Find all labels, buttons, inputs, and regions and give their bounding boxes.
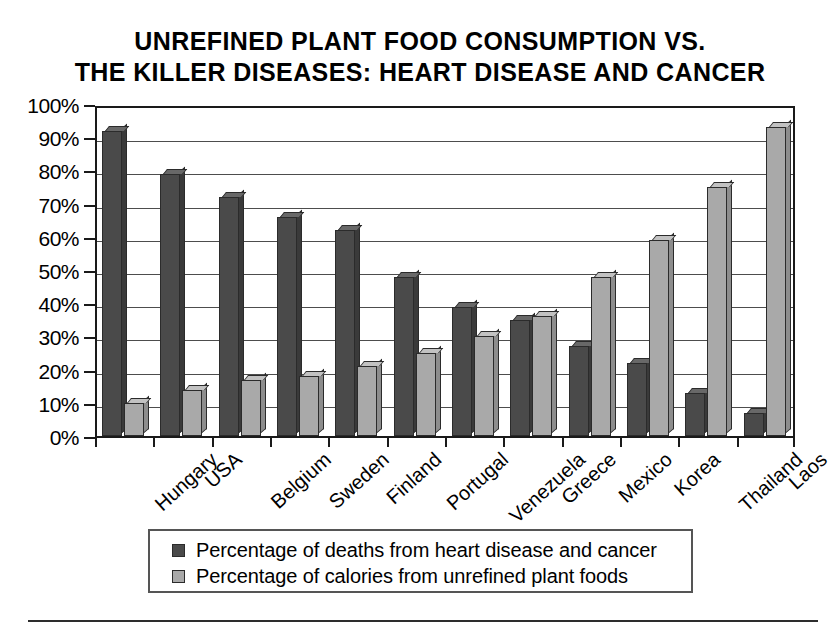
y-tick-mark	[84, 271, 95, 273]
y-tick-label: 10%	[38, 393, 79, 417]
bar-deaths-greece	[510, 320, 530, 436]
bar-deaths-laos	[744, 413, 764, 436]
bar-face	[299, 376, 319, 436]
bar-face	[160, 174, 180, 436]
bar-face	[707, 187, 727, 436]
legend-label-calories: Percentage of calories from unrefined pl…	[196, 565, 628, 588]
x-tick-mark	[503, 438, 505, 447]
bar-group	[447, 108, 505, 436]
bar-face	[335, 230, 355, 436]
bar-face	[241, 380, 261, 436]
bar-face	[182, 390, 202, 436]
bar-top-face	[244, 375, 268, 380]
bar-face	[219, 197, 239, 436]
y-tick-label: 0%	[50, 426, 79, 450]
bar-calories-thailand	[707, 187, 727, 436]
bar-face	[394, 277, 414, 436]
x-tick-mark	[737, 438, 739, 447]
bar-top-face	[419, 348, 443, 353]
bar-group	[622, 108, 680, 436]
y-tick-mark	[84, 205, 95, 207]
bar-deaths-sweden	[277, 217, 297, 436]
bar-side-face	[261, 372, 266, 433]
bar-face	[591, 277, 611, 436]
y-tick-mark	[84, 337, 95, 339]
bar-deaths-korea	[627, 363, 647, 436]
y-tick-label: 100%	[27, 94, 79, 118]
y-axis: 100%90%80%70%60%50%40%30%20%10%0%	[0, 106, 95, 438]
bar-calories-mexico	[591, 277, 611, 436]
bar-calories-usa	[182, 390, 202, 436]
bar-group	[564, 108, 622, 436]
y-tick-mark	[84, 404, 95, 406]
x-axis-label-sweden: Sweden	[325, 448, 394, 513]
chart-title: UNREFINED PLANT FOOD CONSUMPTION VS. THE…	[0, 26, 840, 88]
bar-face	[357, 366, 377, 436]
plot-area	[95, 106, 795, 438]
bar-deaths-hungary	[102, 131, 122, 436]
y-tick-label: 70%	[38, 194, 79, 218]
y-tick-label: 60%	[38, 227, 79, 251]
bar-face	[474, 336, 494, 436]
bar-side-face	[436, 346, 441, 433]
bar-top-face	[127, 398, 151, 403]
bar-top-face	[105, 126, 129, 131]
bar-face	[627, 363, 647, 436]
chart-legend: Percentage of deaths from heart disease …	[148, 529, 693, 593]
bar-top-face	[222, 192, 246, 197]
y-tick-mark	[84, 437, 95, 439]
bar-side-face	[669, 233, 674, 433]
bar-side-face	[727, 180, 732, 433]
y-tick-mark	[84, 105, 95, 107]
x-tick-mark	[212, 438, 214, 447]
bar-deaths-finland	[335, 230, 355, 436]
x-axis-ticks	[95, 438, 795, 448]
bar-deaths-usa	[160, 174, 180, 436]
bar-face	[510, 320, 530, 436]
y-tick-mark	[84, 238, 95, 240]
x-axis-labels: HungaryUSABelgiumSwedenFinlandPortugalVe…	[95, 448, 815, 528]
chart-figure: UNREFINED PLANT FOOD CONSUMPTION VS. THE…	[0, 0, 840, 643]
y-tick-mark	[84, 371, 95, 373]
bar-group	[272, 108, 330, 436]
legend-item-deaths: Percentage of deaths from heart disease …	[172, 538, 691, 562]
bar-face	[532, 316, 552, 436]
y-tick-label: 40%	[38, 293, 79, 317]
bar-face	[766, 127, 786, 436]
y-tick-mark	[84, 304, 95, 306]
y-tick-mark	[84, 171, 95, 173]
x-tick-mark	[387, 438, 389, 447]
bar-top-face	[455, 302, 479, 307]
bar-group	[97, 108, 155, 436]
legend-swatch-icon-calories	[172, 570, 185, 583]
bar-calories-sweden	[299, 376, 319, 436]
bar-deaths-mexico	[569, 346, 589, 436]
x-tick-mark	[793, 438, 795, 447]
x-tick-mark	[445, 438, 447, 447]
bar-group	[330, 108, 388, 436]
bar-face	[649, 240, 669, 436]
bar-face	[452, 307, 472, 436]
x-tick-mark	[270, 438, 272, 447]
y-tick-label: 30%	[38, 326, 79, 350]
bar-group	[680, 108, 738, 436]
chart-title-line-1: UNREFINED PLANT FOOD CONSUMPTION VS.	[0, 26, 840, 57]
legend-label-deaths: Percentage of deaths from heart disease …	[196, 539, 657, 562]
y-tick-label: 50%	[38, 260, 79, 284]
bar-calories-portugal	[416, 353, 436, 436]
bar-side-face	[494, 329, 499, 433]
x-tick-mark	[678, 438, 680, 447]
bar-side-face	[122, 123, 127, 433]
x-tick-mark	[328, 438, 330, 447]
x-axis-label-finland: Finland	[381, 448, 445, 509]
y-tick-label: 20%	[38, 360, 79, 384]
bars-layer	[97, 108, 793, 436]
x-tick-mark	[562, 438, 564, 447]
y-tick-label: 80%	[38, 160, 79, 184]
bar-face	[102, 131, 122, 436]
bar-top-face	[594, 272, 618, 277]
legend-item-calories: Percentage of calories from unrefined pl…	[172, 564, 691, 588]
bar-calories-korea	[649, 240, 669, 436]
bar-group	[739, 108, 793, 436]
bar-side-face	[786, 120, 791, 433]
